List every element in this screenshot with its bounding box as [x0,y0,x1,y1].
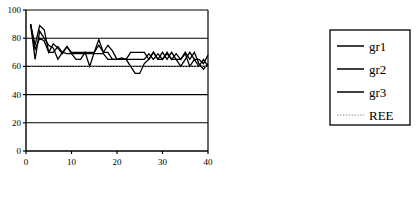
chart-figure: 020406080100010203040gr1gr2gr3REE [0,0,418,197]
legend-label-gr2: gr2 [369,62,386,77]
series-line-gr1 [31,24,208,66]
x-axis-tick-label: 30 [158,157,168,167]
y-axis-tick-label: 40 [12,90,22,100]
line-chart: 020406080100010203040gr1gr2gr3REE [0,0,418,197]
legend-label-gr1: gr1 [369,39,386,54]
y-axis-tick-label: 20 [12,118,22,128]
y-axis-tick-label: 100 [8,5,22,15]
x-axis-tick-label: 10 [67,157,77,167]
legend-label-gr3: gr3 [369,85,386,100]
y-axis-tick-label: 0 [17,146,22,156]
x-axis-tick-label: 40 [204,157,214,167]
y-axis-tick-label: 60 [12,61,22,71]
series-line-gr3 [31,24,208,66]
x-axis-tick-label: 0 [24,157,29,167]
legend-label-REE: REE [369,108,394,123]
x-axis-tick-label: 20 [113,157,123,167]
y-axis-tick-label: 80 [12,33,22,43]
